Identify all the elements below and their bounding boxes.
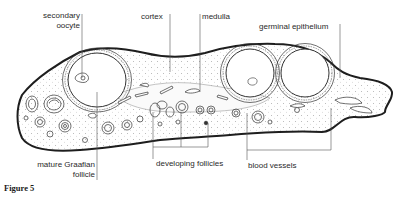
label-cortex: cortex (141, 12, 163, 22)
figure-caption: Figure 5 (4, 183, 34, 193)
label-secondary-oocyte-line1: secondary (34, 11, 80, 21)
large-follicle-1 (221, 44, 280, 103)
ovary-diagram: secondary oocyte cortex medulla germinal… (0, 0, 412, 198)
label-secondary-oocyte: secondary oocyte (34, 11, 80, 30)
large-follicle-2 (276, 44, 335, 103)
label-medulla: medulla (202, 12, 230, 22)
label-mature-graafian-follicle: mature Graafian follicle (28, 160, 95, 179)
label-developing-follicles: developing follicles (156, 159, 223, 169)
label-germinal-epithelium: germinal epithelium (259, 22, 328, 32)
label-blood-vessels: blood vessels (248, 161, 296, 171)
label-mature-graafian-line1: mature Graafian (28, 160, 95, 170)
label-secondary-oocyte-line2: oocyte (34, 21, 80, 31)
label-mature-graafian-line2: follicle (28, 170, 95, 180)
